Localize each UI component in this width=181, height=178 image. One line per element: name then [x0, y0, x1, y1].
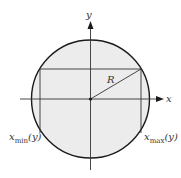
x-axis-arrow-icon — [156, 96, 164, 102]
diagram-svg: y x R xmin(y) xmax(y) — [0, 0, 181, 178]
y-axis-arrow-icon — [88, 21, 94, 29]
circle-integration-diagram: y x R xmin(y) xmax(y) — [0, 0, 181, 178]
x-max-label: xmax(y) — [144, 131, 178, 145]
y-axis-label: y — [85, 9, 92, 20]
x-min-label: xmin(y) — [9, 131, 42, 145]
origin-point — [89, 97, 92, 100]
x-axis-label: x — [166, 93, 172, 104]
radius-label: R — [106, 74, 115, 85]
